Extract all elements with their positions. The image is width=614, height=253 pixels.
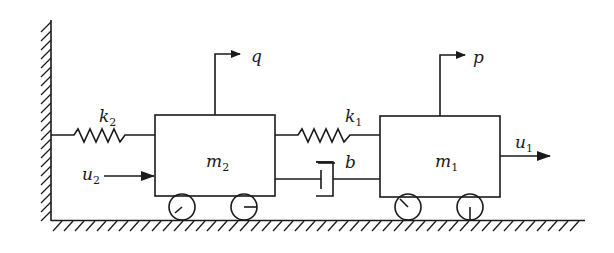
mass-m1-wheels — [395, 194, 483, 220]
input-u2-label: u2 — [82, 164, 100, 187]
mass-m1-label: m1 — [435, 151, 458, 174]
mass-spring-damper-diagram: k2 k1 m2 m1 b q p u2 u1 — [0, 0, 614, 253]
mass-m2-label: m2 — [206, 151, 229, 174]
output-q-label: q — [251, 46, 262, 66]
spring-k1 — [275, 129, 380, 142]
mass-m2-wheels — [169, 194, 257, 220]
ground — [51, 221, 585, 232]
output-q-arrow — [215, 54, 240, 115]
input-u1-label: u1 — [515, 132, 533, 155]
spring-k2-label: k2 — [99, 106, 116, 129]
fixed-wall — [41, 20, 51, 221]
damper-b-label: b — [345, 152, 356, 172]
damper-b — [275, 162, 380, 196]
output-p-label: p — [473, 47, 484, 67]
output-p-arrow — [440, 55, 465, 116]
spring-k2 — [51, 129, 155, 142]
spring-k1-label: k1 — [345, 106, 362, 129]
